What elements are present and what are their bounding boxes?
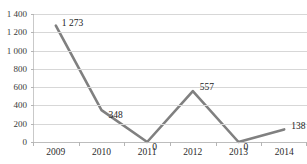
y-axis-tick	[31, 69, 34, 70]
y-axis-tick-label: 1 200	[7, 28, 27, 37]
gridline	[33, 69, 307, 70]
x-axis-tick-label: 2014	[275, 147, 294, 158]
x-axis-tick-label: 2009	[46, 147, 65, 158]
x-axis-tick	[124, 142, 125, 146]
y-axis-tick-label: 800	[14, 64, 28, 73]
plot-area: 1 27334805570138	[33, 14, 307, 142]
x-axis-tick-label: 2013	[229, 147, 248, 158]
y-axis-tick	[31, 87, 34, 88]
x-axis-tick-label: 2012	[183, 147, 202, 158]
x-axis-tick	[79, 142, 80, 146]
gridline	[33, 87, 307, 88]
y-axis-tick-label: 0	[23, 138, 28, 147]
x-axis-tick	[306, 142, 307, 146]
data-point-label: 1 273	[62, 18, 83, 28]
y-axis-tick-label: 1 000	[7, 46, 27, 55]
y-axis-tick	[31, 32, 34, 33]
y-axis-tick-label: 400	[14, 101, 28, 110]
x-axis-tick-label: 2011	[138, 147, 157, 158]
y-axis-tick-label: 1 400	[7, 10, 27, 19]
y-axis-tick-label: 600	[14, 83, 28, 92]
x-axis-tick-label: 2010	[92, 147, 111, 158]
y-axis-tick-label: 200	[14, 119, 28, 128]
y-axis-tick	[31, 14, 34, 15]
y-axis-tick-labels: 02004006008001 0001 2001 400	[0, 14, 31, 142]
y-axis-tick	[31, 124, 34, 125]
gridline	[33, 105, 307, 106]
gridline	[33, 51, 307, 52]
x-axis-tick	[216, 142, 217, 146]
line-chart: 02004006008001 0001 2001 400 1 273348055…	[0, 0, 307, 164]
data-point-label: 348	[109, 110, 123, 120]
y-axis-tick	[31, 105, 34, 106]
y-axis-tick	[31, 51, 34, 52]
gridline	[33, 124, 307, 125]
x-axis: 200920102011201220132014	[33, 142, 307, 164]
y-axis-tick	[31, 142, 34, 143]
gridline	[33, 32, 307, 33]
chart-title	[0, 0, 307, 1]
x-axis-tick	[261, 142, 262, 146]
data-point-label: 557	[200, 82, 214, 92]
gridline	[33, 14, 307, 15]
data-point-label: 138	[291, 121, 305, 131]
x-axis-tick	[170, 142, 171, 146]
